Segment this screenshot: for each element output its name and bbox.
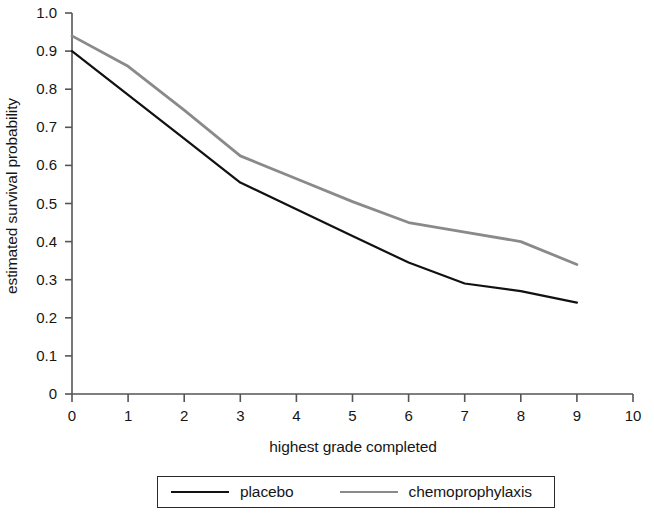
y-axis-tick-label: 0: [11, 386, 57, 401]
y-axis-tick-label: 0.2: [11, 310, 57, 325]
series-line-placebo: [72, 51, 577, 302]
legend-line-swatch-placebo: [171, 491, 229, 493]
survival-probability-chart: estimated survival probability highest g…: [0, 0, 654, 515]
x-axis-tick-label: 0: [57, 408, 87, 423]
x-axis-tick-label: 3: [225, 408, 255, 423]
y-axis-tick-label: 1.0: [11, 5, 57, 20]
y-axis-tick-label: 0.5: [11, 196, 57, 211]
series-line-chemoprophylaxis: [72, 36, 577, 265]
x-axis-tick-label: 6: [394, 408, 424, 423]
x-axis-tick-marks: [72, 394, 633, 402]
x-axis-tick-label: 9: [562, 408, 592, 423]
y-axis-tick-label: 0.3: [11, 272, 57, 287]
y-axis-tick-label: 0.9: [11, 43, 57, 58]
legend-label-chemoprophylaxis: chemoprophylaxis: [409, 483, 532, 501]
x-axis-tick-label: 5: [338, 408, 368, 423]
y-axis-tick-label: 0.1: [11, 348, 57, 363]
x-axis-tick-label: 1: [113, 408, 143, 423]
x-axis-tick-label: 8: [506, 408, 536, 423]
legend-line-swatch-chemoprophylaxis: [340, 491, 398, 493]
x-axis-tick-label: 10: [618, 408, 648, 423]
x-axis-tick-label: 7: [450, 408, 480, 423]
x-axis-tick-label: 2: [169, 408, 199, 423]
chart-legend: placebo chemoprophylaxis: [157, 476, 555, 508]
data-series-group: [72, 36, 577, 303]
y-axis-tick-label: 0.4: [11, 234, 57, 249]
y-axis-tick-label: 0.8: [11, 81, 57, 96]
x-axis-label: highest grade completed: [72, 438, 634, 456]
legend-label-placebo: placebo: [240, 483, 294, 501]
y-axis-tick-label: 0.6: [11, 157, 57, 172]
y-axis-tick-marks: [65, 13, 72, 394]
y-axis-tick-label: 0.7: [11, 119, 57, 134]
x-axis-tick-label: 4: [281, 408, 311, 423]
legend-item-chemoprophylaxis: chemoprophylaxis: [340, 477, 532, 507]
legend-item-placebo: placebo: [171, 477, 294, 507]
